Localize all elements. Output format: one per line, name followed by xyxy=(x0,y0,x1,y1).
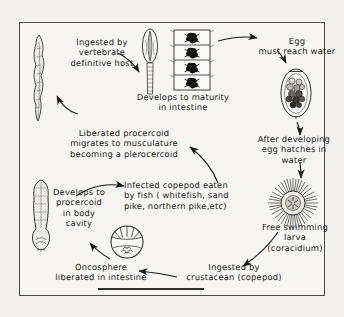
arrow-to-definitive-host xyxy=(57,96,78,114)
caption-egg-must-reach-water: Egg must reach water xyxy=(256,36,338,57)
caption-develops-to-procercoid: Develops to procercoid in body cavity xyxy=(49,187,109,229)
caption-infected-copepod: Infected copepod eaten by fish ( whitefi… xyxy=(124,180,248,211)
life-cycle-figure: Ingested by vertebrate definitive host D… xyxy=(0,0,344,317)
arrow-to-egg xyxy=(218,37,257,41)
arrow-to-coracidium xyxy=(300,163,301,178)
caption-develops-to-maturity: Develops to maturity in intestine xyxy=(110,92,256,113)
scan-underline-mark xyxy=(98,288,204,290)
caption-free-swimming-larva: Free swimming larva (coracidium) xyxy=(252,222,338,253)
caption-liberated-procercoid: Liberated procercoid migrates to muscula… xyxy=(58,128,190,159)
caption-ingested-by-host: Ingested by vertebrate definitive host xyxy=(55,37,149,68)
caption-after-developing: After developing egg hatches in water xyxy=(251,134,337,165)
caption-ingested-by-crustacean: Ingested by crustacean (copepod) xyxy=(176,262,292,283)
caption-oncosphere: Oncosphere liberated in intestine xyxy=(30,262,172,283)
arrow-to-plerocercoid xyxy=(190,147,218,183)
arrow-to-procercoid xyxy=(90,243,110,259)
